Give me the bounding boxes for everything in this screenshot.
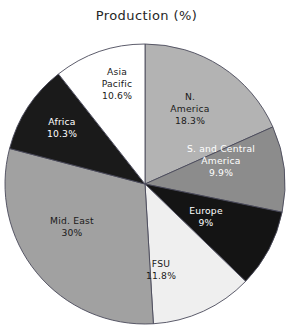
pie-slice-label: Africa10.3% <box>47 116 77 139</box>
pie-slices-group <box>5 44 285 324</box>
pie-chart-canvas: N.America18.3%S. and CentralAmerica9.9%E… <box>0 0 293 329</box>
pie-chart-figure: Production (%) N.America18.3%S. and Cent… <box>0 0 293 329</box>
